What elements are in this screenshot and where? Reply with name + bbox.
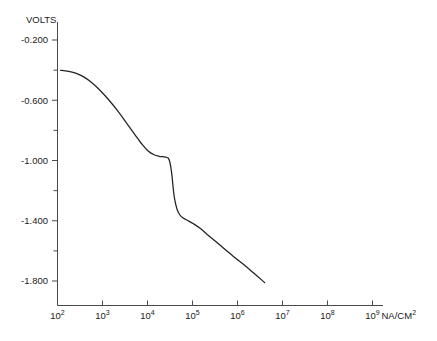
x-axis-unit-label: NA/CM2: [382, 309, 417, 321]
y-tick-label: -1.800: [21, 275, 48, 286]
figure-background: [0, 0, 437, 341]
y-tick-label: -0.200: [21, 34, 48, 45]
y-axis-title: VOLTS: [26, 14, 56, 25]
y-tick-label: -0.600: [21, 95, 48, 106]
chart-figure: VOLTS -0.200-0.600-1.000-1.400-1.800 102…: [0, 0, 437, 341]
y-tick-label: -1.000: [21, 155, 48, 166]
y-tick-label: -1.400: [21, 215, 48, 226]
